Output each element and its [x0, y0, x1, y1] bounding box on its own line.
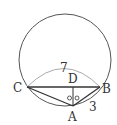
label-ab-length: 3: [89, 100, 97, 114]
angle-mark-left: [68, 96, 72, 100]
label-b: B: [102, 82, 111, 96]
label-a: A: [67, 110, 77, 124]
geometry-diagram: 7 D C B 3 A: [0, 0, 117, 125]
label-c: C: [13, 81, 22, 95]
angle-mark-right: [75, 96, 79, 100]
label-cb-length: 7: [60, 61, 68, 75]
circle: [19, 14, 111, 106]
label-d: D: [68, 72, 78, 86]
